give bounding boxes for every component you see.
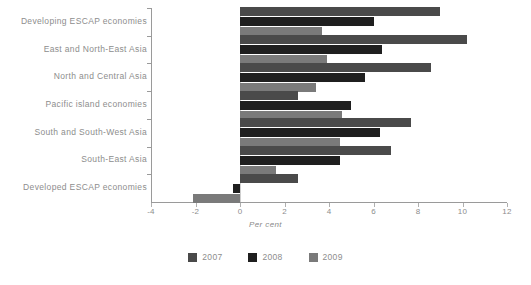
bar-2008-2: [240, 73, 365, 82]
bar-2008-5: [240, 156, 340, 165]
x-tick-label: -2: [181, 207, 211, 216]
bar-2008-3: [240, 101, 351, 110]
legend-label: 2009: [323, 252, 343, 262]
category-label: South-East Asia: [2, 154, 147, 164]
legend-item-2008[interactable]: 2008: [248, 252, 282, 262]
x-tick-label: 2: [270, 207, 300, 216]
x-axis-title: Per cent: [0, 220, 531, 229]
bar-2008-1: [240, 45, 382, 54]
x-tick-label: 0: [225, 207, 255, 216]
bar-2007-6: [240, 174, 298, 183]
bar-2007-4: [240, 118, 411, 127]
x-tick-label: -4: [136, 207, 166, 216]
category-label: Developing ESCAP economies: [2, 16, 147, 26]
bar-2008-0: [240, 17, 374, 26]
bar-2007-5: [240, 146, 391, 155]
x-tick-label: 12: [492, 207, 522, 216]
category-label: North and Central Asia: [2, 71, 147, 81]
legend-label: 2008: [262, 252, 282, 262]
bar-2007-1: [240, 35, 467, 44]
category-label: Developed ESCAP economies: [2, 182, 147, 192]
category-axis-labels: Developing ESCAP economiesEast and North…: [0, 0, 147, 285]
bar-2008-6: [233, 184, 240, 193]
category-label: South and South-West Asia: [2, 127, 147, 137]
bar-2007-2: [240, 63, 431, 72]
bar-2007-0: [240, 7, 440, 16]
bar-2009-6: [193, 194, 240, 203]
x-tick-label: 4: [314, 207, 344, 216]
legend-swatch-icon: [248, 253, 257, 262]
bar-2008-4: [240, 128, 380, 137]
legend-swatch-icon: [309, 253, 318, 262]
x-tick-label: 8: [403, 207, 433, 216]
bar-2007-3: [240, 91, 298, 100]
legend-swatch-icon: [188, 253, 197, 262]
category-label: East and North-East Asia: [2, 44, 147, 54]
bar-chart: Developing ESCAP economiesEast and North…: [0, 0, 531, 285]
x-tick-label: 10: [448, 207, 478, 216]
legend-item-2009[interactable]: 2009: [309, 252, 343, 262]
legend-item-2007[interactable]: 2007: [188, 252, 222, 262]
category-label: Pacific island economies: [2, 99, 147, 109]
legend-label: 2007: [202, 252, 222, 262]
plot-area: [151, 8, 507, 202]
chart-legend: 200720082009: [0, 252, 531, 262]
x-tick-label: 6: [359, 207, 389, 216]
